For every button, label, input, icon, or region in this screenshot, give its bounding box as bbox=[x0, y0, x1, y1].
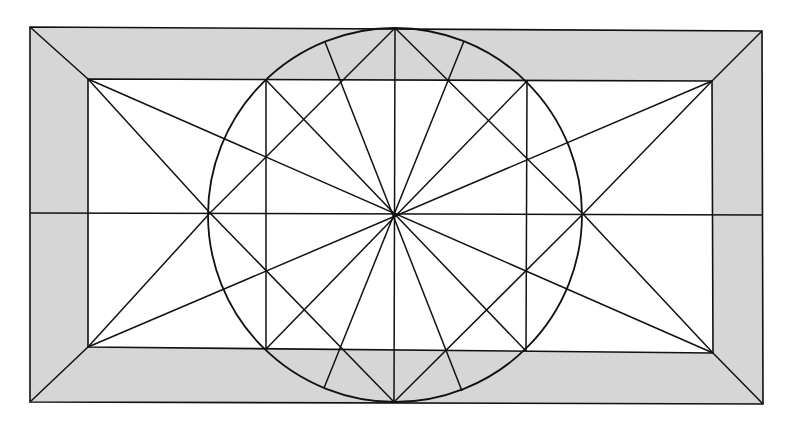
line-vertical-right bbox=[526, 81, 527, 351]
diagram-canvas bbox=[0, 0, 791, 426]
geometric-diagram bbox=[0, 0, 791, 426]
